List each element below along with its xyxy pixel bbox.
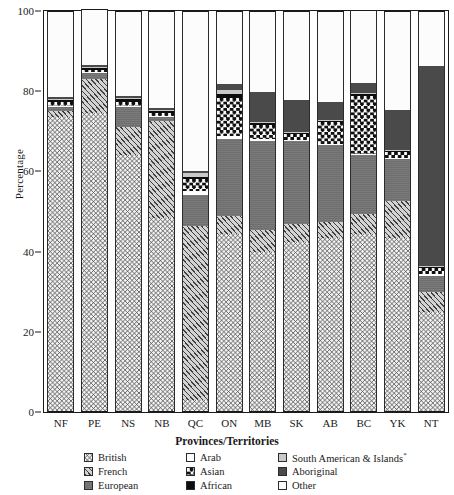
bar-segment-british[interactable] xyxy=(216,234,243,412)
bar-segment-african[interactable] xyxy=(249,123,276,125)
bar-segment-south[interactable] xyxy=(81,67,108,68)
bar-segment-british[interactable] xyxy=(182,400,209,412)
bar-segment-asian[interactable] xyxy=(148,113,175,116)
bar-segment-african[interactable] xyxy=(148,111,175,113)
bar-segment-aboriginal[interactable] xyxy=(182,171,209,173)
bar-segment-aboriginal[interactable] xyxy=(47,97,74,99)
bar-segment-french[interactable] xyxy=(384,201,411,237)
bar-segment-french[interactable] xyxy=(115,127,142,155)
bar-segment-african[interactable] xyxy=(350,94,377,96)
bar-segment-african[interactable] xyxy=(418,267,445,268)
bar-segment-aboriginal[interactable] xyxy=(216,84,243,90)
bar-segment-other[interactable] xyxy=(384,11,411,110)
bar-segment-aboriginal[interactable] xyxy=(283,100,310,132)
bar-segment-asian[interactable] xyxy=(317,122,344,144)
bar-segment-south[interactable] xyxy=(47,99,74,100)
bar-segment-asian[interactable] xyxy=(249,125,276,139)
bar-segment-african[interactable] xyxy=(81,68,108,70)
bar-segment-french[interactable] xyxy=(182,226,209,400)
bar-segment-south[interactable] xyxy=(115,98,142,99)
bar-segment-south[interactable] xyxy=(418,266,445,267)
bar-segment-asian[interactable] xyxy=(350,96,377,154)
bar-segment-south[interactable] xyxy=(148,110,175,111)
bar-yk[interactable] xyxy=(384,11,411,412)
bar-segment-other[interactable] xyxy=(47,11,74,97)
bar-segment-european[interactable] xyxy=(249,141,276,229)
bar-segment-asian[interactable] xyxy=(47,102,74,106)
bar-segment-south[interactable] xyxy=(350,93,377,94)
bar-segment-french[interactable] xyxy=(148,121,175,217)
legend-item-aboriginal[interactable]: Aboriginal xyxy=(278,466,338,477)
bar-on[interactable] xyxy=(216,11,243,412)
bar-segment-asian[interactable] xyxy=(182,179,209,191)
bar-segment-other[interactable] xyxy=(283,11,310,100)
bar-segment-aboriginal[interactable] xyxy=(249,92,276,122)
legend-item-other[interactable]: Other xyxy=(278,480,316,491)
bar-segment-asian[interactable] xyxy=(384,152,411,158)
bar-segment-french[interactable] xyxy=(81,79,108,113)
legend-item-african[interactable]: African xyxy=(186,480,278,491)
bar-segment-south[interactable] xyxy=(249,122,276,123)
bar-segment-south[interactable] xyxy=(283,132,310,133)
bar-segment-french[interactable] xyxy=(317,222,344,238)
bar-qc[interactable] xyxy=(182,11,209,412)
bar-ab[interactable] xyxy=(317,11,344,412)
bar-segment-british[interactable] xyxy=(384,238,411,412)
bar-segment-european[interactable] xyxy=(115,107,142,127)
bar-segment-british[interactable] xyxy=(418,312,445,412)
bar-mb[interactable] xyxy=(249,11,276,412)
bar-segment-other[interactable] xyxy=(317,11,344,102)
bar-segment-british[interactable] xyxy=(47,117,74,412)
bar-segment-african[interactable] xyxy=(216,94,243,98)
legend-item-french[interactable]: French xyxy=(84,466,186,477)
bar-segment-arab[interactable] xyxy=(148,116,175,117)
bar-segment-other[interactable] xyxy=(148,11,175,108)
bar-segment-african[interactable] xyxy=(283,133,310,134)
bar-segment-european[interactable] xyxy=(384,159,411,201)
bar-segment-arab[interactable] xyxy=(47,106,74,107)
bar-segment-european[interactable] xyxy=(216,139,243,215)
bar-segment-other[interactable] xyxy=(216,11,243,84)
bar-segment-european[interactable] xyxy=(317,145,344,221)
bar-segment-aboriginal[interactable] xyxy=(418,66,445,267)
bar-segment-asian[interactable] xyxy=(216,98,243,136)
bar-ns[interactable] xyxy=(115,11,142,412)
bar-segment-european[interactable] xyxy=(148,117,175,121)
bar-segment-other[interactable] xyxy=(182,11,209,171)
bar-segment-arab[interactable] xyxy=(317,144,344,145)
bar-segment-south[interactable] xyxy=(317,120,344,121)
bar-segment-asian[interactable] xyxy=(418,268,445,274)
legend-item-south-american-islands[interactable]: South American & Islands* xyxy=(278,451,407,464)
legend-item-asian[interactable]: Asian xyxy=(186,466,278,477)
bar-nf[interactable] xyxy=(47,11,74,412)
bar-segment-french[interactable] xyxy=(47,111,74,117)
bar-segment-other[interactable] xyxy=(350,10,377,83)
bar-segment-other[interactable] xyxy=(249,11,276,92)
bar-bc[interactable] xyxy=(350,11,377,412)
bar-segment-european[interactable] xyxy=(350,155,377,213)
bar-sk[interactable] xyxy=(283,11,310,412)
bar-segment-african[interactable] xyxy=(317,121,344,122)
bar-segment-french[interactable] xyxy=(216,216,243,234)
bar-segment-aboriginal[interactable] xyxy=(148,108,175,110)
bar-segment-arab[interactable] xyxy=(418,274,445,275)
bar-segment-other[interactable] xyxy=(115,11,142,96)
bar-segment-french[interactable] xyxy=(283,224,310,242)
bar-segment-european[interactable] xyxy=(418,276,445,292)
bar-segment-arab[interactable] xyxy=(81,72,108,73)
bar-segment-french[interactable] xyxy=(249,230,276,252)
bar-segment-british[interactable] xyxy=(283,242,310,412)
bar-segment-aboriginal[interactable] xyxy=(384,110,411,150)
bar-segment-arab[interactable] xyxy=(350,154,377,155)
bar-segment-british[interactable] xyxy=(81,113,108,412)
bar-nt[interactable] xyxy=(418,11,445,412)
bar-segment-other[interactable] xyxy=(81,9,108,65)
bar-segment-arab[interactable] xyxy=(384,158,411,159)
bar-segment-british[interactable] xyxy=(317,238,344,412)
bar-segment-british[interactable] xyxy=(249,252,276,412)
bar-segment-aboriginal[interactable] xyxy=(317,102,344,120)
bar-segment-asian[interactable] xyxy=(115,102,142,106)
bar-segment-french[interactable] xyxy=(418,292,445,312)
bar-segment-other[interactable] xyxy=(418,11,445,66)
bar-segment-aboriginal[interactable] xyxy=(115,96,142,98)
